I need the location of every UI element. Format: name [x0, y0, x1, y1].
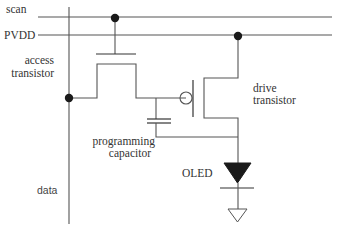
pvdd-label: PVDD — [4, 29, 35, 41]
oled-label: OLED — [182, 167, 213, 179]
scan-label: scan — [6, 3, 27, 15]
oled-diode-icon — [220, 163, 254, 209]
scan-junction-dot — [111, 14, 119, 22]
access-transistor — [69, 17, 186, 98]
programming-capacitor-label-2: capacitor — [109, 147, 151, 160]
access-transistor-label-2: transistor — [11, 67, 54, 79]
drive-transistor-label-1: drive — [253, 82, 277, 94]
data-label: data — [37, 184, 58, 196]
ground-icon — [228, 209, 247, 222]
drive-transistor-label-2: transistor — [253, 94, 296, 106]
data-junction-dot — [65, 94, 73, 102]
circuit-diagram: scan PVDD access transistor drive transi… — [0, 0, 339, 235]
access-transistor-label-1: access — [25, 54, 55, 66]
drive-transistor — [180, 35, 238, 163]
pvdd-junction-dot — [234, 32, 242, 40]
